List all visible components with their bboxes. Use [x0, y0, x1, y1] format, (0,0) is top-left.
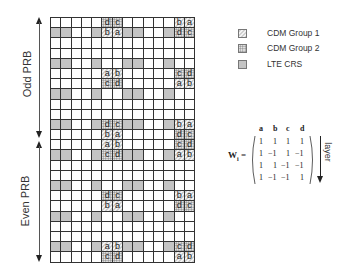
grid-cell	[154, 242, 164, 252]
even-prb-arrow-line	[39, 146, 40, 256]
grid-cell	[133, 79, 143, 89]
crs-cell	[61, 89, 71, 99]
grid-cell	[175, 212, 185, 222]
grid-cell	[51, 110, 61, 120]
grid-cell	[61, 191, 71, 201]
grid-cell	[82, 130, 92, 140]
grid-cell	[61, 69, 71, 79]
matrix-right-paren-icon	[309, 135, 315, 185]
matrix-entry: −1	[268, 173, 277, 182]
grid-cell	[82, 28, 92, 38]
grid-cell	[82, 100, 92, 110]
crs-cell	[133, 212, 143, 222]
grid-cell	[51, 79, 61, 89]
grid-cell	[72, 69, 82, 79]
grid-cell	[113, 49, 123, 59]
grid-cell	[92, 79, 102, 89]
grid-cell	[123, 232, 133, 242]
grid-cell	[61, 222, 71, 232]
matrix-entry: 1	[259, 149, 263, 158]
grid-cell	[51, 38, 61, 48]
grid-cell	[154, 140, 164, 150]
crs-cell	[164, 242, 174, 252]
grid-cell	[82, 49, 92, 59]
grid-cell	[123, 38, 133, 48]
crs-cell	[123, 28, 133, 38]
grid-cell	[113, 38, 123, 48]
grid-cell	[72, 49, 82, 59]
grid-cell	[154, 28, 164, 38]
grid-cell	[82, 212, 92, 222]
grid-cell	[154, 201, 164, 211]
crs-cell	[51, 212, 61, 222]
grid-cell	[102, 89, 112, 99]
grid-cell	[154, 232, 164, 242]
grid-cell	[72, 79, 82, 89]
grid-cell	[154, 222, 164, 232]
crs-cell	[164, 120, 174, 130]
crs-cell	[61, 212, 71, 222]
grid-cell	[82, 120, 92, 130]
grid-cell	[144, 242, 154, 252]
matrix-entry: 1	[300, 173, 304, 182]
crs-cell	[51, 120, 61, 130]
grid-cell	[164, 130, 174, 140]
grid-cell	[123, 191, 133, 201]
grid-cell	[72, 232, 82, 242]
grid-cell	[185, 38, 195, 48]
grid-cell	[164, 38, 174, 48]
crs-cell	[61, 242, 71, 252]
grid-cell	[175, 49, 185, 59]
matrix-entry: −1	[295, 161, 304, 170]
matrix-column-header: c	[286, 124, 290, 133]
grid-cell	[82, 140, 92, 150]
crs-cell	[133, 120, 143, 130]
grid-cell	[82, 38, 92, 48]
grid-cell	[82, 161, 92, 171]
matrix-entry: 1	[259, 173, 263, 182]
matrix-entry: −1	[281, 173, 290, 182]
layer-arrow-line	[320, 136, 321, 176]
dmrs-cell: a	[175, 252, 185, 262]
grid-cell	[164, 79, 174, 89]
crs-cell	[51, 242, 61, 252]
grid-cell	[72, 222, 82, 232]
legend-label: CDM Group 1	[267, 28, 319, 38]
grid-cell	[113, 171, 123, 181]
grid-cell	[92, 201, 102, 211]
dmrs-cell: b	[185, 252, 195, 262]
grid-cell	[154, 130, 164, 140]
grid-cell	[51, 201, 61, 211]
grid-cell	[123, 201, 133, 211]
matrix-left-paren-icon	[250, 135, 256, 185]
grid-cell	[133, 49, 143, 59]
grid-cell	[72, 110, 82, 120]
crs-cell	[61, 28, 71, 38]
grid-cell	[164, 201, 174, 211]
grid-cell	[82, 181, 92, 191]
grid-cell	[175, 89, 185, 99]
grid-cell	[185, 212, 195, 222]
crs-cell	[164, 28, 174, 38]
dmrs-cell: d	[175, 28, 185, 38]
grid-cell	[185, 171, 195, 181]
grid-cell	[61, 201, 71, 211]
grid-cell	[133, 69, 143, 79]
matrix-column-header: d	[300, 124, 304, 133]
grid-cell	[133, 232, 143, 242]
grid-cell	[102, 171, 112, 181]
grid-cell	[154, 89, 164, 99]
grid-cell	[164, 110, 174, 120]
grid-cell	[144, 232, 154, 242]
grid-cell	[144, 140, 154, 150]
grid-cell	[92, 232, 102, 242]
grid-cell	[133, 222, 143, 232]
grid-cell	[144, 252, 154, 262]
grid-cell	[154, 191, 164, 201]
grid-cell	[51, 232, 61, 242]
grid-cell	[164, 69, 174, 79]
dmrs-cell: d	[113, 150, 123, 160]
grid-cell	[72, 191, 82, 201]
grid-cell	[144, 191, 154, 201]
grid-cell	[175, 222, 185, 232]
